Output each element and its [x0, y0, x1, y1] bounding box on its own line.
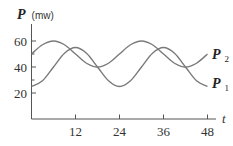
series-p1-label-main: P	[212, 76, 221, 91]
y-axis-title: P (mw)	[17, 5, 54, 22]
x-tick-labels: 12243648	[69, 124, 214, 139]
series-p1-label: P 1	[212, 74, 229, 93]
x-ticks	[76, 115, 208, 120]
x-tick-label: 48	[201, 124, 214, 139]
series-p2-label: P 2	[212, 45, 229, 64]
series-p1-label-sub: 1	[225, 83, 230, 93]
power-chart: P (mw) 204060 12243648 t P 2 P 1	[0, 0, 233, 146]
y-axis-unit: (mw)	[32, 10, 54, 21]
y-axis-variable: P	[17, 7, 26, 22]
y-tick-label: 20	[14, 86, 27, 101]
y-tick-label: 60	[14, 34, 27, 49]
series-p2-line	[32, 41, 208, 67]
x-tick-label: 36	[157, 124, 171, 139]
x-tick-label: 24	[113, 124, 127, 139]
y-tick-labels: 204060	[14, 34, 27, 101]
x-axis-title: t	[222, 111, 226, 126]
series-p2-label-main: P	[212, 47, 221, 62]
y-tick-label: 40	[14, 60, 27, 75]
series-p2-label-sub: 2	[225, 54, 230, 64]
x-tick-label: 12	[69, 124, 82, 139]
